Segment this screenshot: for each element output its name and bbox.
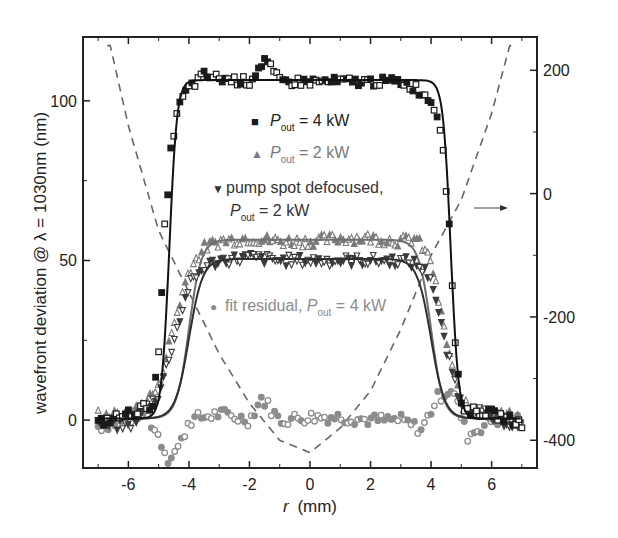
data-point: [435, 389, 441, 395]
data-point: [169, 330, 175, 336]
data-point: [275, 413, 281, 419]
data-point: [335, 411, 341, 417]
data-point: [189, 423, 195, 429]
y2-tick-label: 0: [543, 186, 552, 203]
legend-marker-inverted-triangle-icon: ▼: [212, 182, 224, 196]
fit-curve: [98, 240, 521, 419]
x-tick-label: -4: [182, 476, 196, 493]
data-point: [441, 333, 447, 339]
data-point: [95, 407, 101, 413]
data-point: [237, 260, 243, 266]
data-point: [422, 92, 428, 98]
legend-marker-filled-square-icon: ■: [251, 114, 259, 129]
data-point: [191, 261, 197, 267]
data-point: [362, 416, 368, 422]
data-point: [226, 262, 232, 268]
data-point: [351, 240, 357, 246]
data-point: [232, 74, 238, 80]
data-point: [159, 290, 165, 296]
arrow-right-icon: [500, 205, 508, 211]
data-point: [150, 404, 156, 410]
data-point: [325, 420, 331, 426]
data-point: [120, 426, 126, 432]
data-point: [153, 374, 159, 380]
data-point: [436, 310, 442, 316]
data-point: [245, 423, 251, 429]
data-point: [413, 82, 419, 88]
data-point: [202, 239, 208, 245]
data-point: [519, 425, 525, 431]
legend-label-4kw: Pout = 4 kW: [270, 112, 350, 133]
data-point: [133, 420, 139, 426]
data-point: [101, 423, 107, 429]
data-point: [265, 398, 271, 404]
data-point: [432, 403, 438, 409]
data-point: [395, 418, 401, 424]
data-point: [192, 84, 198, 90]
data-point: [411, 256, 417, 262]
data-point: [422, 420, 428, 426]
data-point: [312, 418, 318, 424]
data-point: [478, 430, 484, 436]
data-point: [195, 410, 201, 416]
data-point: [465, 438, 471, 444]
y2-tick-label: -200: [543, 309, 575, 326]
data-point: [172, 336, 178, 342]
data-point: [153, 389, 159, 395]
data-point: [168, 145, 174, 151]
data-point: [308, 410, 314, 416]
y-axis-title: wavefront deviation @ λ = 1030nm (nm): [31, 112, 50, 415]
data-point: [410, 88, 416, 94]
data-point: [462, 419, 468, 425]
data-point: [169, 455, 175, 461]
data-point: [174, 325, 180, 331]
plot-data-layer: [95, 46, 524, 467]
data-point: [286, 252, 292, 258]
data-point: [283, 263, 289, 269]
data-point: [375, 418, 381, 424]
x-tick-label: 0: [306, 476, 315, 493]
data-point: [349, 263, 355, 269]
data-point: [201, 68, 207, 74]
x-tick-label: -2: [242, 476, 256, 493]
data-point: [174, 309, 180, 315]
data-point: [215, 414, 221, 420]
data-point: [262, 403, 268, 409]
y-tick-label: 100: [50, 93, 77, 110]
data-point: [193, 275, 199, 281]
data-point: [434, 114, 440, 120]
data-point: [247, 83, 253, 89]
legend: ■ Pout = 4 kW ▲ Pout = 2 kW ▼ pump spot …: [210, 112, 387, 318]
data-point: [365, 422, 371, 428]
data-point: [268, 61, 274, 67]
data-point: [498, 411, 504, 417]
x-axis-title: r (mm): [283, 497, 337, 516]
data-point: [159, 444, 165, 450]
right-axis-arrow-annotation: [474, 205, 508, 211]
data-point: [387, 262, 393, 268]
data-point: [449, 362, 455, 368]
data-point: [292, 82, 298, 88]
legend-marker-circle-icon: ●: [210, 300, 217, 314]
data-point: [172, 449, 178, 455]
data-point: [165, 461, 171, 467]
x-tick-label: 4: [427, 476, 436, 493]
x-tick-label: -6: [121, 476, 135, 493]
data-point: [433, 278, 439, 284]
data-point: [298, 83, 304, 89]
data-point: [307, 82, 313, 88]
x-axis-title-unit: (mm): [297, 497, 337, 516]
data-point: [285, 422, 291, 428]
legend-label-defocused-line1: pump spot defocused,: [226, 179, 383, 196]
data-point: [126, 407, 132, 413]
legend-marker-triangle-icon: ▲: [251, 147, 263, 161]
data-point: [428, 100, 434, 106]
data-point: [428, 258, 434, 264]
data-point: [259, 64, 265, 70]
data-point: [437, 127, 443, 133]
x-tick-label: 2: [366, 476, 375, 493]
data-point: [114, 427, 120, 433]
y2-tick-label: -400: [543, 432, 575, 449]
data-point: [182, 434, 188, 440]
data-point: [308, 260, 314, 266]
